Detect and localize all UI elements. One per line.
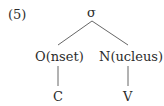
example-number: (5) xyxy=(8,8,26,21)
edge-root-onset xyxy=(58,21,92,45)
leaf-v: V xyxy=(123,90,132,103)
edge-root-nucleus xyxy=(92,21,128,45)
node-nucleus: N(ucleus) xyxy=(99,50,163,63)
root-node-sigma: σ xyxy=(87,6,96,19)
node-onset: O(nset) xyxy=(35,50,84,63)
leaf-c: C xyxy=(53,90,63,103)
